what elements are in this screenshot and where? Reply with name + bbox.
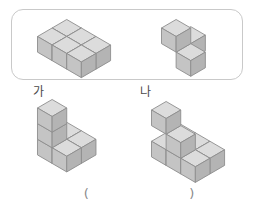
choice-label-ga: 가 [33,86,44,98]
worksheet-canvas: 가 나 ( ) [0,0,278,211]
answer-close-paren: ) [189,186,194,201]
choice-ga-figure[interactable] [36,18,112,79]
question-figure-right[interactable] [150,100,226,184]
answer-row: ( ) [0,186,278,201]
question-figure-left[interactable] [36,98,97,173]
answer-open-paren: ( [84,186,89,201]
choice-label-na: 나 [140,86,151,98]
choice-na-figure[interactable] [160,18,207,78]
